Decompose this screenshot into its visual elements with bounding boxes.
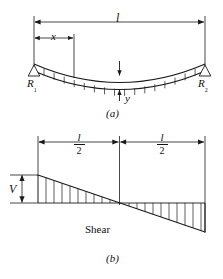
distance-x-label: x [51,31,56,42]
reaction-right-symbol: R [198,77,205,89]
half-span-numerator-right: l [155,132,169,144]
reaction-left-symbol: R [27,77,34,89]
panel-a-caption: (a) [106,108,119,119]
half-span-denominator-left: 2 [72,145,86,156]
reaction-right-label: R2 [198,78,208,91]
beam-shear-figure: l x y R1 R2 (a) l 2 l 2 V Shear (b) [0,0,223,279]
span-length-label: l [116,12,119,24]
half-span-fraction-left: l 2 [72,132,86,156]
reaction-left-subscript: 1 [34,87,37,93]
support-triangle-right [199,65,211,76]
support-triangle-left [28,65,40,76]
panel-b-caption: (b) [106,253,119,264]
half-span-numerator-left: l [72,132,86,144]
figure-drawing [0,0,223,279]
half-span-denominator-right: 2 [155,145,169,156]
shear-magnitude-label: V [9,183,16,195]
shear-value-line [38,175,205,232]
deflection-y-label: y [125,93,130,104]
half-span-fraction-right: l 2 [155,132,169,156]
reaction-left-label: R1 [27,78,37,91]
panel-b-drawing [10,136,205,233]
reaction-right-subscript: 2 [205,87,208,93]
panel-a-drawing [28,16,211,101]
shear-diagram-label: Shear [85,224,110,235]
